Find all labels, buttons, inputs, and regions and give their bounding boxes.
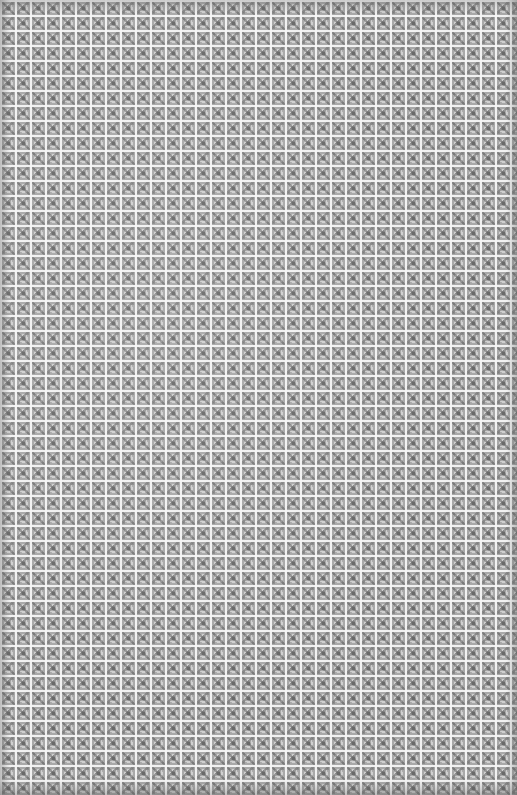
lattice-texture bbox=[0, 0, 517, 795]
